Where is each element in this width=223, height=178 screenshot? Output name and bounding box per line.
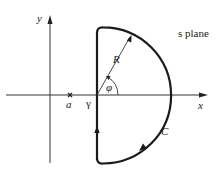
angle-label: φ — [106, 81, 112, 93]
x-axis-label: x — [197, 99, 203, 111]
x-axis — [6, 93, 208, 98]
y-axis-arrow-icon — [48, 15, 53, 24]
pole-label: a — [66, 98, 72, 110]
x-axis-arrow-icon — [199, 93, 208, 98]
s-plane-diagram: y x a γ R φ C s plane — [0, 0, 223, 178]
plane-title: s plane — [178, 27, 209, 39]
radius-label: R — [112, 53, 120, 65]
contour-label: C — [161, 125, 169, 137]
y-axis — [48, 15, 53, 163]
intercept-label: γ — [85, 97, 91, 109]
radius-line — [97, 37, 130, 95]
contour-up-arrow-icon — [94, 126, 99, 133]
y-axis-label: y — [36, 12, 42, 24]
